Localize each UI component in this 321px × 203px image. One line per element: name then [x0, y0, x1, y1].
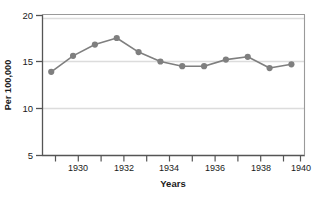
- x-tick-label-1936: 1936: [198, 163, 232, 173]
- x-tick-label-1938: 1938: [244, 163, 278, 173]
- data-point: [135, 49, 141, 55]
- x-tick-label-1932: 1932: [107, 163, 141, 173]
- data-point: [245, 54, 251, 60]
- chart-figure: Per 100,000: [0, 0, 321, 203]
- data-point: [92, 41, 98, 47]
- x-axis-title: Years: [40, 178, 306, 189]
- data-point: [70, 53, 76, 59]
- data-point: [179, 63, 185, 69]
- data-point: [114, 35, 120, 41]
- data-point: [201, 63, 207, 69]
- x-tick-label-1934: 1934: [152, 163, 186, 173]
- data-point: [48, 69, 54, 75]
- x-tick-label-1940: 1940: [284, 163, 318, 173]
- plot-area-background: [42, 15, 305, 156]
- data-point: [157, 58, 163, 64]
- y-tick-label-5: 5: [11, 150, 33, 161]
- y-tick-marks: [36, 16, 42, 156]
- data-point: [266, 65, 272, 71]
- data-point: [223, 57, 229, 63]
- y-tick-label-10: 10: [11, 103, 33, 114]
- data-point: [288, 61, 294, 67]
- x-tick-label-1930: 1930: [61, 163, 95, 173]
- x-tick-marks: [56, 156, 301, 162]
- y-tick-label-15: 15: [11, 56, 33, 67]
- y-tick-label-20: 20: [11, 10, 33, 21]
